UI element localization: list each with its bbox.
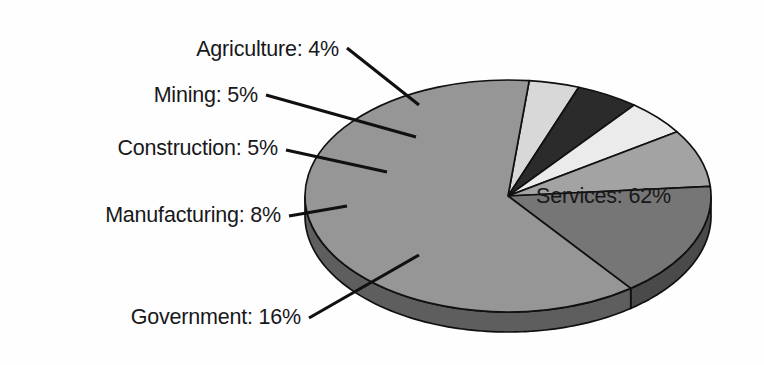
slice-label-government: Government: 16% [131, 305, 301, 329]
pie-chart-figure: Agriculture: 4%Mining: 5%Construction: 5… [0, 0, 764, 365]
pie-chart-svg: Agriculture: 4%Mining: 5%Construction: 5… [0, 0, 764, 365]
slice-label-manufacturing: Manufacturing: 8% [105, 203, 281, 227]
slice-label-agriculture: Agriculture: 4% [196, 37, 339, 61]
slice-label-services: Services: 62% [536, 184, 671, 208]
leader-line-agriculture [347, 48, 419, 105]
slice-label-construction: Construction: 5% [117, 136, 278, 160]
slice-label-mining: Mining: 5% [154, 83, 258, 107]
